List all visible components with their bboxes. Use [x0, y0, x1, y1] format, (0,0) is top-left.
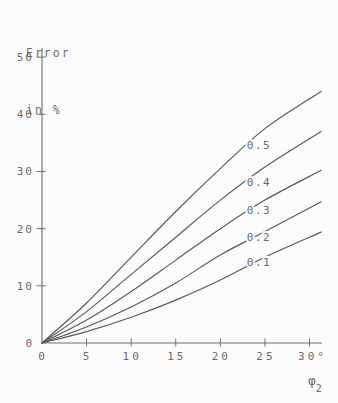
chart-canvas: Error in % 01020304050051015202530°φ20.5… — [0, 0, 338, 403]
y-tick-label: 0 — [25, 337, 34, 350]
x-tick-label: 25 — [256, 350, 275, 363]
curve-label-0.2: 0.2 — [247, 231, 271, 244]
axes-lines — [42, 48, 322, 343]
y-tick-label: 30 — [17, 165, 34, 178]
curve-0.5 — [42, 91, 321, 343]
x-tick-label: 5 — [83, 350, 93, 363]
x-tick-label: 20 — [212, 350, 231, 363]
curve-label-0.1: 0.1 — [247, 256, 271, 269]
x-tick-label: 15 — [167, 350, 186, 363]
error-vs-phi2-plot: 01020304050051015202530°φ20.50.40.30.20.… — [0, 0, 338, 403]
curve-label-0.4: 0.4 — [247, 176, 271, 189]
y-tick-label: 50 — [17, 51, 34, 64]
y-tick-label: 40 — [17, 108, 34, 121]
curve-label-0.5: 0.5 — [247, 139, 271, 152]
curve-0.3 — [42, 170, 321, 343]
x-tick-label: 30° — [298, 350, 327, 363]
y-tick-label: 10 — [17, 280, 34, 293]
y-tick-label: 20 — [17, 223, 34, 236]
x-tick-label: 10 — [123, 350, 142, 363]
x-tick-label: 0 — [38, 350, 48, 363]
curve-0.4 — [42, 132, 321, 344]
curve-0.1 — [42, 232, 321, 343]
curve-label-0.3: 0.3 — [247, 204, 271, 217]
x-axis-label-phi2: φ2 — [308, 373, 322, 394]
